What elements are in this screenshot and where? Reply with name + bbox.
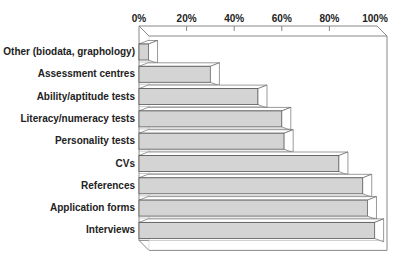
category-label: CVs [116, 158, 135, 170]
bar-other-biodata-graphology [139, 41, 158, 64]
category-label: Interviews [86, 224, 135, 236]
category-label: References [81, 180, 135, 192]
x-tick-label: 60% [272, 13, 292, 24]
category-label: Assessment centres [38, 68, 135, 80]
category-label: Other (biodata, graphology) [3, 46, 135, 58]
bar-ability-aptitude-tests [139, 85, 267, 108]
plot-frame-top [139, 26, 387, 36]
bar-references [139, 174, 372, 197]
x-tick-label: 40% [224, 13, 244, 24]
category-label: Ability/aptitude tests [37, 91, 135, 103]
plot-area [0, 0, 400, 267]
category-label: Application forms [50, 202, 135, 214]
bar-assessment-centres [139, 63, 219, 86]
bar-personality-tests [139, 130, 293, 153]
horizontal-bar-chart: 0%20%40%60%80%100% Other (biodata, graph… [0, 0, 400, 267]
bar-cvs [139, 152, 348, 175]
x-tick-label: 0% [132, 13, 146, 24]
plot-frame-floor [139, 240, 387, 250]
bar-application-forms [139, 197, 376, 220]
bar-literacy-numeracy-tests [139, 107, 291, 130]
category-label: Literacy/numeracy tests [20, 113, 135, 125]
x-tick-label: 80% [319, 13, 339, 24]
bar-interviews [139, 219, 384, 242]
category-label: Personality tests [55, 135, 135, 147]
x-tick-label: 100% [362, 13, 388, 24]
x-tick-label: 20% [177, 13, 197, 24]
